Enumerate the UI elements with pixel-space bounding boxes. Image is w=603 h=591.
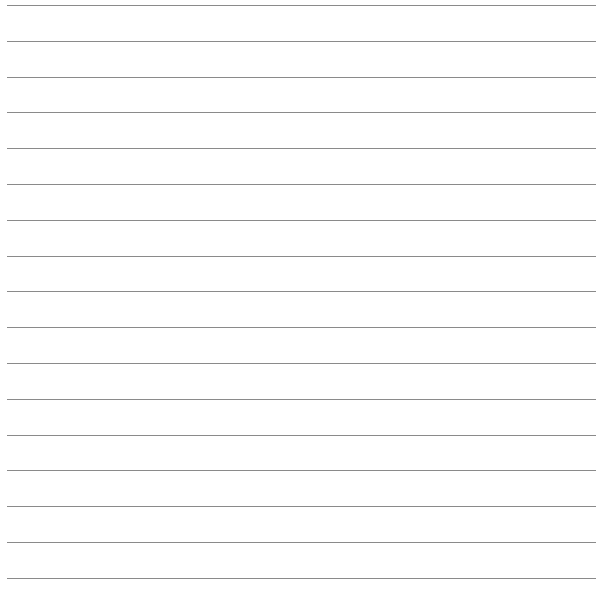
ruled-line xyxy=(7,470,596,471)
ruled-line xyxy=(7,5,596,6)
ruled-line xyxy=(7,291,596,292)
ruled-line xyxy=(7,578,596,579)
ruled-line xyxy=(7,363,596,364)
ruled-line xyxy=(7,220,596,221)
ruled-line xyxy=(7,256,596,257)
ruled-line xyxy=(7,184,596,185)
ruled-line xyxy=(7,112,596,113)
ruled-line xyxy=(7,506,596,507)
ruled-line xyxy=(7,399,596,400)
ruled-line xyxy=(7,435,596,436)
ruled-line xyxy=(7,542,596,543)
ruled-line xyxy=(7,41,596,42)
ruled-line xyxy=(7,148,596,149)
ruled-line xyxy=(7,77,596,78)
ruled-line xyxy=(7,327,596,328)
